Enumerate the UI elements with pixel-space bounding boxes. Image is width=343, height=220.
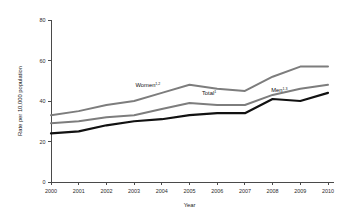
x-tick-label: 2010	[322, 188, 334, 194]
annotation-superscript: 1,3	[282, 87, 287, 91]
x-axis-title: Year	[184, 202, 196, 208]
annotation-label: Total1	[202, 90, 216, 96]
annotation-superscript: 1	[214, 90, 216, 94]
y-tick-label: 80	[40, 17, 46, 23]
y-axis-title: Rate per 10,000 population	[17, 66, 23, 136]
y-axis-ticks: 020406080	[40, 17, 52, 185]
x-tick-label: 2003	[128, 188, 140, 194]
y-tick-label: 60	[40, 58, 46, 64]
annotation-label: Women1,2	[135, 82, 160, 88]
annotation-total: Total1	[202, 90, 216, 96]
chart-figure: 020406080 200020012002200320042005200620…	[0, 0, 343, 220]
x-tick-label: 2001	[73, 188, 85, 194]
x-tick-label: 2008	[267, 188, 279, 194]
x-axis-ticks: 2000200120022003200420052006200720082009…	[45, 182, 334, 194]
x-tick-label: 2000	[45, 188, 57, 194]
y-tick-label: 40	[40, 98, 46, 104]
series-lines	[51, 67, 328, 134]
x-tick-label: 2002	[100, 188, 112, 194]
y-tick-label: 0	[43, 179, 46, 185]
y-tick-label: 20	[40, 139, 46, 145]
series-line-men	[51, 93, 328, 133]
annotation-women: Women1,2	[135, 82, 160, 88]
x-tick-label: 2006	[211, 188, 223, 194]
x-tick-label: 2005	[184, 188, 196, 194]
line-chart: 020406080 200020012002200320042005200620…	[0, 0, 343, 220]
x-tick-label: 2007	[239, 188, 251, 194]
x-tick-label: 2009	[294, 188, 306, 194]
annotation-superscript: 1,2	[155, 82, 160, 86]
x-tick-label: 2004	[156, 188, 168, 194]
